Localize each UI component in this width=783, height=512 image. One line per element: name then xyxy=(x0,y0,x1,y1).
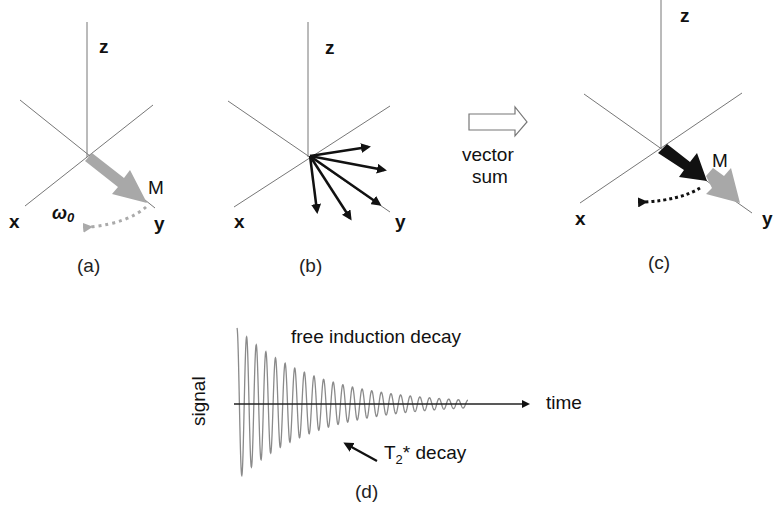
fid-title: free induction decay xyxy=(291,326,462,347)
vector-m-label: M xyxy=(712,150,728,171)
axis-x-label: x xyxy=(234,211,245,232)
axis-z-label: z xyxy=(99,36,109,57)
caption-b: (b) xyxy=(299,255,322,276)
mri-precession-diagram: z x y M ω0 (a) z x y (b) vector sum xyxy=(0,0,783,512)
axis-z-label: z xyxy=(680,5,690,26)
spin-vectors xyxy=(310,147,384,218)
vector-m-label: M xyxy=(148,177,164,198)
t2star-annotation: T2* decay xyxy=(384,442,467,467)
precession-arrow-c xyxy=(645,188,700,202)
vector-sum-transition: vector sum xyxy=(462,107,527,187)
axis-x-label: x xyxy=(575,208,586,229)
caption-c: (c) xyxy=(648,252,670,273)
hollow-right-arrow-icon xyxy=(469,107,527,136)
magnetization-vector-a xyxy=(85,153,147,203)
x-axis-label-time: time xyxy=(546,392,582,413)
y-axis-label-signal: signal xyxy=(188,376,209,426)
axis-x-label: x xyxy=(9,211,20,232)
panel-a: z x y M ω0 (a) xyxy=(9,22,165,276)
t2star-pointer-arrow xyxy=(346,444,377,461)
precession-arrow-a xyxy=(90,207,146,227)
vector-sum-line1: vector xyxy=(462,144,514,165)
panel-d-fid-chart: free induction decay time signal T2* dec… xyxy=(188,326,582,502)
axis-y-label: y xyxy=(762,208,773,229)
original-vector-c xyxy=(706,168,740,203)
panel-b: z x y (b) xyxy=(228,22,406,276)
axis-z-label: z xyxy=(325,37,335,58)
axis-y-label: y xyxy=(395,211,406,232)
caption-a: (a) xyxy=(77,255,100,276)
axes-b xyxy=(228,22,390,212)
caption-d: (d) xyxy=(355,481,378,502)
vector-sum-line2: sum xyxy=(472,166,508,187)
omega-label: ω0 xyxy=(52,203,75,225)
axis-y-label: y xyxy=(154,213,165,234)
panel-c: z x y M (c) xyxy=(575,0,773,273)
net-magnetization-vector-c xyxy=(658,144,707,181)
